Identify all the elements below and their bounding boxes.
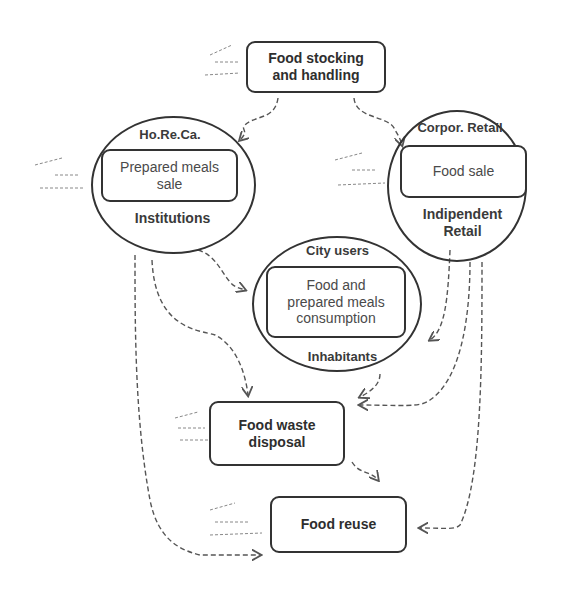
- food-sale-label: Food sale: [433, 163, 494, 180]
- food-stocking-line1: Food stocking: [268, 50, 364, 67]
- retail-line2: Retail: [415, 223, 510, 240]
- consumption-line3: consumption: [287, 310, 384, 327]
- indipendent-line1: Indipendent: [415, 206, 510, 223]
- inhabitants-label: Inhabitants: [295, 349, 390, 364]
- prepared-meals-sale-box: Prepared meals sale: [101, 149, 238, 202]
- food-stocking-line2: and handling: [268, 67, 364, 84]
- food-reuse-label: Food reuse: [301, 516, 376, 533]
- food-waste-line2: disposal: [238, 434, 315, 451]
- food-reuse-box: Food reuse: [270, 496, 407, 553]
- prepared-meals-line2: sale: [120, 176, 219, 193]
- food-waste-disposal-box: Food waste disposal: [209, 401, 345, 466]
- corporate-retail-label: Corpor. Retail: [410, 120, 510, 135]
- food-sale-box: Food sale: [400, 145, 527, 198]
- food-waste-line1: Food waste: [238, 417, 315, 434]
- city-users-label: City users: [290, 243, 385, 258]
- prepared-meals-line1: Prepared meals: [120, 159, 219, 176]
- food-stocking-box: Food stocking and handling: [246, 41, 386, 93]
- horeca-top-label: Ho.Re.Ca.: [130, 127, 210, 142]
- consumption-line2: prepared meals: [287, 294, 384, 311]
- consumption-line1: Food and: [287, 277, 384, 294]
- institutions-label: Institutions: [125, 210, 220, 226]
- indipendent-retail-label: Indipendent Retail: [415, 206, 510, 240]
- consumption-box: Food and prepared meals consumption: [266, 266, 406, 338]
